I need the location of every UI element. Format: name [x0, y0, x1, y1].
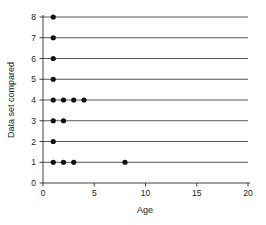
x-axis-title: Age [137, 205, 153, 215]
x-tick-label-20: 20 [243, 188, 253, 198]
data-point [61, 118, 66, 123]
data-point [81, 97, 86, 102]
y-tick-label-6: 6 [31, 54, 36, 64]
y-tick-labels-group: 0 1 2 3 4 5 6 7 8 [31, 12, 36, 188]
y-tick-label-2: 2 [31, 137, 36, 147]
data-points-layer [51, 14, 128, 164]
data-point [51, 97, 56, 102]
data-point [51, 160, 56, 165]
data-point [51, 35, 56, 40]
y-tick-label-1: 1 [31, 157, 36, 167]
data-point [51, 14, 56, 19]
y-tick-label-5: 5 [31, 74, 36, 84]
x-tick-label-10: 10 [141, 188, 151, 198]
chart-canvas: 0 1 2 3 4 5 6 7 8 0 5 10 15 20 Age Data … [0, 0, 266, 225]
x-tick-labels-group: 0 5 10 15 20 [41, 188, 253, 198]
data-point [51, 139, 56, 144]
data-point [51, 56, 56, 61]
x-tick-label-0: 0 [41, 188, 46, 198]
scatter-chart-figure: 0 1 2 3 4 5 6 7 8 0 5 10 15 20 Age Data … [0, 0, 266, 225]
y-tick-marks-group [40, 17, 44, 183]
x-tick-label-15: 15 [192, 188, 202, 198]
y-axis-title: Data set compared [6, 62, 16, 138]
y-tick-label-3: 3 [31, 116, 36, 126]
y-tick-label-7: 7 [31, 33, 36, 43]
gridlines-group [43, 17, 248, 162]
data-point [71, 97, 76, 102]
data-point [51, 118, 56, 123]
x-tick-marks-group [43, 183, 248, 187]
data-point [122, 160, 127, 165]
data-point [51, 77, 56, 82]
y-tick-label-8: 8 [31, 12, 36, 22]
x-tick-label-5: 5 [92, 188, 97, 198]
data-point [61, 97, 66, 102]
y-tick-label-4: 4 [31, 95, 36, 105]
data-point [61, 160, 66, 165]
y-tick-label-0: 0 [31, 178, 36, 188]
data-point [71, 160, 76, 165]
